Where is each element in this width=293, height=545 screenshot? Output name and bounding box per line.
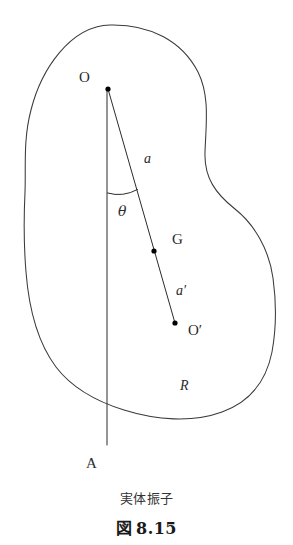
theta-angle-arc: [108, 190, 138, 195]
rod-upper-length-label-a: a: [144, 152, 151, 166]
pivot-label-O: O: [79, 70, 90, 85]
center-of-oscillation-label-O-prime: O′: [188, 323, 202, 338]
caption-prefix-text: 図: [116, 519, 132, 538]
angle-label-theta: θ: [118, 204, 126, 218]
figure-caption: 実体振子 図8.15: [0, 488, 293, 539]
caption-number-line: 図8.15: [0, 515, 293, 539]
pivot-point-dot: [105, 86, 110, 91]
figure-root: O a θ G a′ O′ R A 実体振子 図8.15: [0, 0, 293, 545]
physical-pendulum-diagram: [0, 0, 293, 545]
rigid-body-label-R: R: [180, 379, 189, 393]
center-of-mass-label-G: G: [172, 232, 183, 247]
rigid-body-outline: [24, 25, 276, 419]
caption-number-text: 8.15: [136, 519, 177, 538]
rod-lower-length-label-a-prime: a′: [176, 284, 186, 298]
caption-title-text: 実体振子: [0, 488, 293, 507]
center-of-oscillation-dot: [172, 320, 177, 325]
vertical-axis-label-A: A: [86, 456, 97, 471]
center-of-mass-dot: [151, 248, 156, 253]
